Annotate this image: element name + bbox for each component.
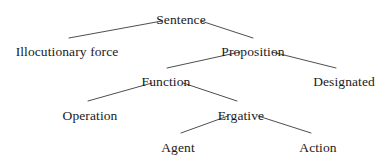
tree-node-sentence: Sentence [156,13,206,27]
tree-node-designated: Designated [313,75,375,89]
tree-edge-ergative-action [258,116,311,133]
tree-node-operation: Operation [63,109,118,123]
tree-node-proposition: Proposition [221,45,284,59]
tree-node-action: Action [299,141,336,155]
tree-edge-function-ergative [183,83,237,101]
tree-node-function: Function [142,75,191,89]
tree-node-agent: Agent [161,141,195,155]
tree-node-ergative: Ergative [218,109,264,123]
tree-node-illocutionary-force: Illocutionary force [16,45,119,59]
tree-edge-sentence-proposition [201,21,253,38]
sentence-tree-diagram: SentenceIllocutionary forcePropositionFu… [0,0,389,158]
tree-edge-sentence-illocutionary-force [69,21,162,38]
